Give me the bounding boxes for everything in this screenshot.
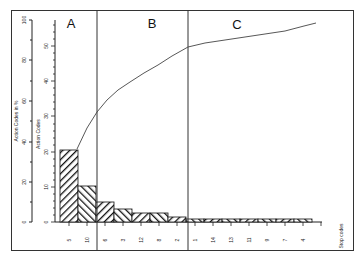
count-axis: 0 10 20 30 40 50 Action Codes [35, 20, 55, 223]
percent-axis: 0 20 40 60 80 100 Action Codes in % [13, 16, 32, 224]
bar-12 [132, 213, 150, 222]
bar-8 [150, 213, 168, 222]
svg-text:11: 11 [246, 237, 252, 242]
bar-13 [222, 219, 240, 222]
svg-text:20: 20 [21, 179, 27, 185]
bar-10 [78, 186, 96, 222]
cumulative-curve [77, 23, 316, 149]
pareto-chart: 0 20 40 60 80 100 Action Codes in % [0, 0, 356, 263]
x-tick-labels: 5 10 6 3 12 8 2 1 14 13 11 9 7 4 [66, 237, 306, 243]
svg-text:60: 60 [21, 98, 27, 104]
svg-text:80: 80 [21, 57, 27, 63]
svg-text:13: 13 [228, 237, 234, 243]
percent-axis-title: Action Codes in % [13, 100, 19, 141]
region-label-a: A [67, 16, 76, 31]
bar-2 [168, 217, 186, 222]
bar-4 [294, 219, 312, 222]
bar-11 [240, 219, 258, 222]
svg-text:1: 1 [192, 238, 198, 241]
svg-text:3: 3 [120, 238, 126, 241]
svg-text:40: 40 [43, 78, 49, 84]
bar-14 [204, 219, 222, 222]
svg-text:7: 7 [282, 238, 288, 241]
svg-text:5: 5 [66, 238, 72, 241]
svg-text:50: 50 [43, 43, 49, 49]
svg-text:40: 40 [21, 139, 27, 145]
bar-3 [114, 209, 132, 222]
svg-text:100: 100 [21, 16, 27, 25]
bar-1 [186, 219, 204, 222]
x-ticks [69, 222, 321, 226]
svg-text:20: 20 [43, 149, 49, 155]
bar-9 [258, 219, 276, 222]
svg-text:6: 6 [102, 238, 108, 241]
svg-text:9: 9 [264, 238, 270, 241]
svg-text:30: 30 [43, 113, 49, 119]
svg-text:0: 0 [21, 220, 27, 223]
x-axis-title: Stop codes [338, 223, 344, 249]
bar-6 [96, 202, 114, 222]
svg-text:4: 4 [300, 238, 306, 241]
svg-text:2: 2 [174, 238, 180, 241]
svg-text:14: 14 [210, 237, 216, 243]
svg-text:10: 10 [84, 237, 90, 243]
bar-5 [60, 150, 78, 222]
svg-text:0: 0 [43, 220, 49, 223]
bars [60, 150, 312, 222]
svg-text:8: 8 [156, 238, 162, 241]
svg-text:10: 10 [43, 184, 49, 190]
count-axis-title: Action Codes [35, 119, 41, 149]
bar-7 [276, 219, 294, 222]
svg-text:12: 12 [138, 237, 144, 243]
region-label-b: B [148, 16, 157, 31]
region-label-c: C [232, 17, 241, 32]
